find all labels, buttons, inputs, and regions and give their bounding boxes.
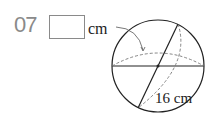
- diameter-label: 16 cm: [155, 90, 192, 107]
- sphere-figure: [0, 0, 220, 130]
